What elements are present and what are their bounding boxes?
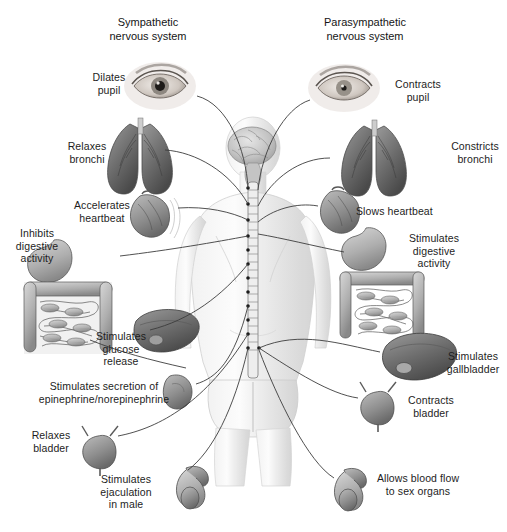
autonomic-nervous-system-figure: Sympathetic nervous system Parasympathet… (0, 0, 507, 532)
male-genitals-left-illustration (176, 466, 208, 509)
label-contracts-bladder: Contracts bladder (400, 394, 462, 419)
brain-illustration (228, 127, 276, 186)
label-contracts-pupil: Contracts pupil (386, 78, 450, 103)
lungs-right-illustration (342, 120, 407, 196)
label-allows-blood-flow-sex-organs: Allows blood flow to sex organs (368, 472, 468, 497)
label-inhibits-digestive-activity: Inhibits digestive activity (8, 227, 66, 265)
label-constricts-bronchi: Constricts bronchi (444, 140, 506, 165)
eye-right-illustration (308, 64, 380, 112)
label-stimulates-glucose-release: Stimulates glucose release (90, 330, 152, 368)
label-stimulates-ejaculation: Stimulates ejaculation in male (92, 473, 160, 511)
label-relaxes-bronchi: Relaxes bronchi (56, 140, 118, 165)
label-stimulates-digestive-activity: Stimulates digestive activity (402, 232, 466, 270)
label-stimulates-gallbladder: Stimulates gallbladder (440, 350, 506, 375)
label-stimulates-epinephrine-secretion: Stimulates secretion of epinephrine/nore… (30, 380, 178, 405)
label-accelerates-heartbeat: Accelerates heartbeat (66, 199, 138, 224)
label-dilates-pupil: Dilates pupil (78, 71, 140, 96)
label-relaxes-bladder: Relaxes bladder (20, 429, 82, 454)
bladder-left-illustration (82, 426, 118, 476)
male-genitals-right-illustration (334, 468, 366, 511)
heading-sympathetic: Sympathetic nervous system (78, 16, 218, 43)
label-slows-heartbeat: Slows heartbeat (356, 205, 456, 218)
heading-parasympathetic: Parasympathetic nervous system (290, 16, 440, 43)
bladder-right-illustration (360, 382, 396, 432)
